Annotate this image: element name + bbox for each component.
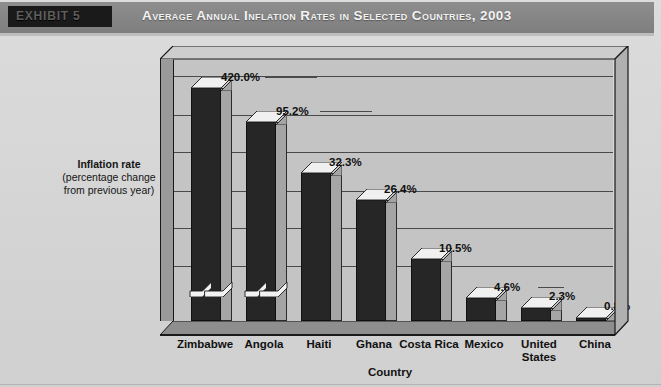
exhibit-number-label: EXHIBIT 5 — [16, 9, 112, 23]
chart-floor-front-edge — [160, 334, 615, 336]
bar-series: 420.0%95.2%32.3%26.4%10.5%4.6%2.3%0.8% — [173, 59, 613, 321]
bar-side-face — [441, 259, 452, 321]
category-label-haiti: Haiti — [288, 338, 350, 351]
bar-costa-rica[interactable] — [411, 248, 441, 321]
bar-side-face — [496, 298, 507, 321]
chart-top-deck — [160, 46, 628, 59]
category-label-china: China — [564, 338, 626, 351]
bar-value-label: 26.4% — [384, 183, 417, 195]
bar-angola[interactable] — [246, 111, 276, 321]
bar-mexico[interactable] — [466, 287, 496, 321]
bar-chart: 420.0%95.2%32.3%26.4%10.5%4.6%2.3%0.8% — [160, 46, 628, 335]
y-axis-title-line3: from previous year) — [48, 184, 170, 197]
bar-zimbabwe[interactable] — [191, 77, 221, 321]
value-label-leader-line — [538, 287, 564, 288]
category-label-ghana: Ghana — [342, 338, 406, 351]
value-label-leader-line — [320, 111, 372, 112]
exhibit-page: EXHIBIT 5 Average Annual Inflation Rates… — [0, 0, 661, 387]
bar-value-label: 10.5% — [439, 242, 472, 254]
exhibit-title: Average Annual Inflation Rates in Select… — [142, 8, 512, 23]
y-axis-title-line1: Inflation rate — [48, 158, 170, 171]
bar-value-label: 4.6% — [494, 281, 520, 293]
bar-united-states[interactable] — [521, 297, 551, 321]
page-bottom-border — [0, 384, 661, 385]
bar-front-face — [356, 200, 386, 321]
axis-break-mark — [244, 279, 290, 297]
bar-china[interactable] — [576, 307, 606, 321]
bar-haiti[interactable] — [301, 162, 331, 321]
bar-front-face — [411, 259, 441, 321]
axis-break-mark — [189, 279, 235, 297]
bar-value-label: 32.3% — [329, 156, 362, 168]
x-axis-title: Country — [330, 366, 450, 378]
bar-front-face — [521, 308, 551, 321]
chart-left-wall — [160, 59, 173, 321]
bar-front-face — [466, 298, 496, 321]
bar-value-label: 95.2% — [276, 105, 309, 117]
bar-front-face — [301, 173, 331, 321]
category-label-costa-rica: Costa Rica — [398, 338, 460, 351]
bar-ghana[interactable] — [356, 189, 386, 321]
bar-side-face — [386, 200, 397, 321]
y-axis-title-line2: (percentage change — [48, 171, 170, 184]
bar-side-face — [331, 173, 342, 321]
y-axis-title: Inflation rate (percentage change from p… — [48, 158, 170, 197]
category-label-united-states: United States — [506, 338, 572, 364]
chart-floor — [160, 321, 628, 335]
header-shadow — [0, 33, 654, 36]
value-label-leader-line — [265, 77, 317, 78]
bar-value-label: 420.0% — [221, 71, 260, 83]
chart-right-wall — [613, 46, 628, 336]
bar-value-label: 2.3% — [549, 290, 575, 302]
